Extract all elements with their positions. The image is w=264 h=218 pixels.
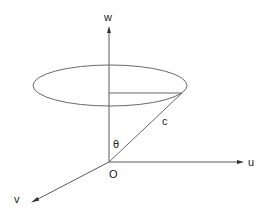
slant-label-c: c bbox=[162, 115, 168, 127]
angle-label-theta: θ bbox=[113, 139, 119, 150]
w-axis-arrowhead-icon bbox=[107, 26, 111, 33]
u-axis-label: u bbox=[248, 156, 254, 168]
v-axis-arrowhead-icon bbox=[31, 197, 39, 203]
v-axis bbox=[36, 162, 109, 200]
w-axis-label: w bbox=[103, 11, 112, 23]
cone-axes-diagram: w u v O c θ bbox=[0, 0, 264, 218]
cone-base-ellipse bbox=[33, 65, 187, 106]
v-axis-label: v bbox=[14, 193, 20, 205]
u-axis-arrowhead-icon bbox=[237, 160, 244, 164]
origin-label: O bbox=[109, 168, 118, 180]
